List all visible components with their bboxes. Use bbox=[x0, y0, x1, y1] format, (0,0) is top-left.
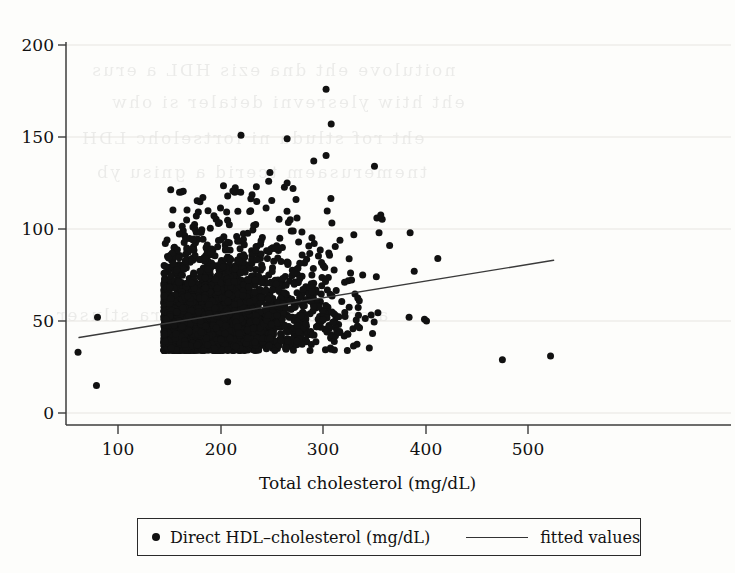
scatter-point bbox=[202, 255, 209, 262]
scatter-point bbox=[327, 195, 334, 202]
scatter-point bbox=[268, 321, 275, 328]
scatter-point bbox=[251, 289, 258, 296]
scatter-point bbox=[369, 330, 376, 337]
scatter-point bbox=[306, 250, 313, 257]
scatter-point bbox=[231, 278, 238, 285]
scatter-point bbox=[161, 330, 168, 337]
scatter-point bbox=[220, 182, 227, 189]
scatter-point bbox=[305, 243, 312, 250]
scatter-point bbox=[180, 266, 187, 273]
scatter-point bbox=[282, 328, 289, 335]
scatter-point bbox=[354, 323, 361, 330]
scatter-point bbox=[225, 290, 232, 297]
scatter-point bbox=[434, 255, 441, 262]
scatter-point bbox=[253, 183, 260, 190]
scatter-point bbox=[266, 169, 273, 176]
scatter-point bbox=[252, 339, 259, 346]
scatter-point bbox=[265, 312, 272, 319]
scatter-point bbox=[307, 347, 314, 354]
scatter-point bbox=[180, 305, 187, 312]
scatter-point bbox=[344, 330, 351, 337]
scatter-point bbox=[308, 271, 315, 278]
scatter-point bbox=[368, 311, 375, 318]
scatter-point bbox=[231, 301, 238, 308]
scatter-point bbox=[176, 254, 183, 261]
scatter-point bbox=[328, 309, 335, 316]
scatter-point bbox=[336, 329, 343, 336]
scatter-point bbox=[279, 275, 286, 282]
scatter-point bbox=[293, 337, 300, 344]
scatter-point bbox=[371, 319, 378, 326]
scatter-point bbox=[211, 305, 218, 312]
scatter-point bbox=[265, 178, 272, 185]
scatter-point bbox=[204, 266, 211, 273]
scatter-point bbox=[296, 275, 303, 282]
y-tick-label-200: 200 bbox=[8, 37, 54, 54]
scatter-point bbox=[374, 309, 381, 316]
y-tick-label-0: 0 bbox=[8, 405, 54, 422]
scatter-point bbox=[237, 269, 244, 276]
scatter-point bbox=[185, 249, 192, 256]
scatter-point bbox=[338, 298, 345, 305]
scatter-point bbox=[234, 238, 241, 245]
scatter-point bbox=[250, 222, 257, 229]
scatter-point bbox=[279, 244, 286, 251]
scatter-point bbox=[188, 280, 195, 287]
scatter-point bbox=[222, 246, 229, 253]
scatter-point bbox=[320, 316, 327, 323]
x-tick-label-100: 100 bbox=[88, 441, 148, 458]
scatter-point bbox=[259, 264, 266, 271]
legend-entry-fitted[interactable]: fitted values bbox=[466, 528, 640, 547]
scatter-point bbox=[350, 343, 357, 350]
scatter-point bbox=[180, 188, 187, 195]
scatter-point bbox=[258, 294, 265, 301]
scatter-point bbox=[263, 204, 270, 211]
scatter-point bbox=[295, 328, 302, 335]
scatter-point bbox=[93, 382, 100, 389]
scatter-point bbox=[192, 225, 199, 232]
scatter-point bbox=[293, 196, 300, 203]
scatter-point bbox=[75, 349, 82, 356]
scatter-point bbox=[290, 347, 297, 354]
scatter-point bbox=[173, 266, 180, 273]
scatter-point bbox=[202, 284, 209, 291]
scatter-point bbox=[346, 304, 353, 311]
scatter-point bbox=[362, 315, 369, 322]
scatter-point bbox=[165, 254, 172, 261]
scatter-point bbox=[225, 298, 232, 305]
scatter-point bbox=[322, 278, 329, 285]
scatter-point bbox=[328, 220, 335, 227]
scatter-point bbox=[273, 280, 280, 287]
scatter-point bbox=[310, 303, 317, 310]
scatter-point bbox=[283, 344, 290, 351]
scatter-point bbox=[240, 251, 247, 258]
scatter-point bbox=[308, 288, 315, 295]
scatter-point bbox=[194, 342, 201, 349]
scatter-point bbox=[356, 297, 363, 304]
scatter-point bbox=[238, 132, 245, 139]
scatter-point bbox=[257, 241, 264, 248]
scatter-point bbox=[190, 236, 197, 243]
scatter-point bbox=[201, 294, 208, 301]
scatter-point bbox=[269, 287, 276, 294]
scatter-point bbox=[278, 337, 285, 344]
scatter-point bbox=[355, 304, 362, 311]
scatter-point bbox=[376, 229, 383, 236]
scatter-point bbox=[176, 231, 183, 238]
scatter-point bbox=[332, 243, 339, 250]
scatter-point bbox=[235, 330, 242, 337]
scatter-point bbox=[229, 188, 236, 195]
axis-spines bbox=[66, 42, 731, 425]
scatter-point bbox=[167, 295, 174, 302]
scatter-point bbox=[315, 252, 322, 259]
scatter-point bbox=[179, 323, 186, 330]
legend-label-hdl: Direct HDL–cholesterol (mg/dL) bbox=[170, 528, 430, 547]
scatter-point bbox=[259, 234, 266, 241]
scatter-point bbox=[359, 271, 366, 278]
scatter-point bbox=[234, 323, 241, 330]
legend-entry-scatter[interactable]: Direct HDL–cholesterol (mg/dL) bbox=[152, 528, 430, 547]
scatter-point bbox=[294, 265, 301, 272]
scatter-point bbox=[212, 276, 219, 283]
scatter-point bbox=[423, 318, 430, 325]
scatter-point bbox=[322, 346, 329, 353]
